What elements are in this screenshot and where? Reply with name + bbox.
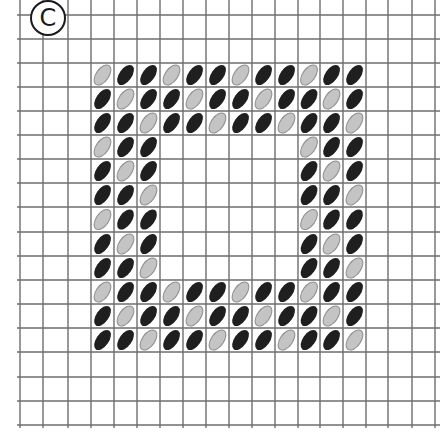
stitch-dark (297, 110, 321, 136)
stitch-dark (114, 206, 138, 232)
stitch-dark (229, 327, 253, 353)
stitch-dark (297, 182, 321, 208)
stitch-chart (0, 0, 442, 446)
stitch-light (206, 110, 230, 136)
stitch-dark (206, 279, 230, 305)
stitch-light (297, 62, 321, 88)
stitch-dark (343, 303, 367, 329)
stitch-dark (91, 182, 115, 208)
stitch-dark (206, 62, 230, 88)
stitch-dark (114, 255, 138, 281)
stitch-light (297, 134, 321, 160)
stitch-dark (160, 110, 184, 136)
stitch-dark (297, 158, 321, 184)
stitch-light (320, 158, 344, 184)
stitch-light (320, 303, 344, 329)
stitch-dark (297, 327, 321, 353)
stitch-light (183, 86, 207, 112)
stitch-dark (252, 327, 276, 353)
stitch-dark (114, 110, 138, 136)
stitch-light (160, 62, 184, 88)
stitch-light (297, 279, 321, 305)
stitch-light (252, 86, 276, 112)
stitch-dark (229, 303, 253, 329)
stitch-dark (320, 62, 344, 88)
stitch-dark (320, 279, 344, 305)
stitch-dark (114, 182, 138, 208)
stitch-dark (91, 110, 115, 136)
stitch-light (160, 279, 184, 305)
stitch-dark (137, 279, 161, 305)
stitch-light (320, 231, 344, 257)
stitch-dark (275, 303, 299, 329)
grid-lines (17, 0, 440, 428)
stitch-dark (137, 62, 161, 88)
stitch-light (229, 279, 253, 305)
stitch-light (114, 86, 138, 112)
stitch-dark (320, 134, 344, 160)
stitch-dark (320, 182, 344, 208)
stitch-dark (183, 110, 207, 136)
stitch-light (137, 327, 161, 353)
stitch-light (137, 255, 161, 281)
stitch-dark (137, 86, 161, 112)
stitch-light (343, 110, 367, 136)
stitch-dark (137, 231, 161, 257)
stitch-light (114, 231, 138, 257)
stitch-dark (252, 279, 276, 305)
stitch-dark (343, 231, 367, 257)
stitch-dark (229, 110, 253, 136)
stitch-light (114, 158, 138, 184)
stitch-dark (137, 158, 161, 184)
stitch-dark (343, 279, 367, 305)
stitch-dark (206, 86, 230, 112)
stitch-dark (114, 134, 138, 160)
stitch-dark (275, 279, 299, 305)
stitch-dark (252, 62, 276, 88)
stitch-light (91, 206, 115, 232)
stitch-light (91, 62, 115, 88)
figure-label: C (40, 6, 57, 30)
stitch-dark (91, 231, 115, 257)
stitch-light (91, 279, 115, 305)
stitch-dark (320, 327, 344, 353)
stitch-dark (343, 62, 367, 88)
stitch-dark (297, 255, 321, 281)
stitch-dark (114, 62, 138, 88)
stitch-dark (91, 327, 115, 353)
stitch-light (343, 182, 367, 208)
stitch-dark (343, 158, 367, 184)
stitch-dark (275, 86, 299, 112)
stitch-dark (91, 255, 115, 281)
stitch-dark (137, 206, 161, 232)
stitch-dark (91, 303, 115, 329)
stitch-light (114, 303, 138, 329)
stitch-dark (137, 134, 161, 160)
stitch-dark (183, 279, 207, 305)
stitch-light (183, 303, 207, 329)
stitch-dark (114, 279, 138, 305)
stitch-dark (297, 231, 321, 257)
stitch-dark (91, 86, 115, 112)
stitch-dark (343, 134, 367, 160)
figure-label-circle-c: C (30, 0, 66, 36)
stitch-dark (183, 327, 207, 353)
stitch-dark (91, 158, 115, 184)
stitch-light (137, 182, 161, 208)
stitch-dark (252, 110, 276, 136)
stitch-light (320, 86, 344, 112)
stitch-dark (297, 86, 321, 112)
stitch-light (297, 206, 321, 232)
stitch-dark (320, 110, 344, 136)
stitch-light (252, 303, 276, 329)
stitch-dark (343, 86, 367, 112)
stitch-dark (229, 86, 253, 112)
stitch-dark (114, 327, 138, 353)
stitch-light (229, 62, 253, 88)
stitch-light (275, 327, 299, 353)
stitch-dark (206, 303, 230, 329)
stitch-dark (160, 327, 184, 353)
stitch-dark (320, 206, 344, 232)
stitch-light (343, 327, 367, 353)
stitch-dark (160, 303, 184, 329)
